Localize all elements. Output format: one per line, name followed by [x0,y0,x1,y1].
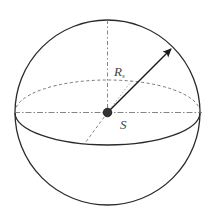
radius-arrow [108,49,172,113]
center-point [103,108,112,117]
projection-dotted-line [108,81,133,113]
equator-front-solid [15,113,200,146]
sphere-diagram: Rs S [0,0,214,220]
radius-label: Rs [113,64,125,80]
sphere-svg: Rs S [0,0,214,220]
diagonal-dashed-line [84,113,108,145]
center-label: S [120,117,127,132]
